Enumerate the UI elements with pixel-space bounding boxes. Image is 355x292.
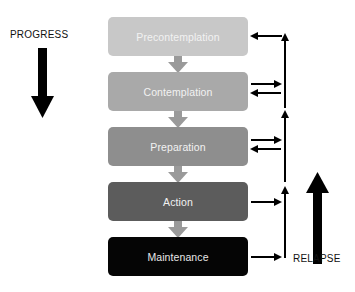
stage-label: Precontemplation xyxy=(136,31,219,43)
stage-contemplation: Contemplation xyxy=(108,72,248,111)
relapse-arrow-icon xyxy=(306,172,329,264)
progress-label: PROGRESS xyxy=(10,29,68,40)
stage-preparation: Preparation xyxy=(108,127,248,166)
stages-of-change-diagram: PROGRESS RELAPSE Precontemplation Contem… xyxy=(0,0,355,292)
relapse-label: RELAPSE xyxy=(293,253,341,264)
stage-maintenance: Maintenance xyxy=(108,237,248,276)
stage-label: Preparation xyxy=(150,141,205,153)
stage-label: Maintenance xyxy=(147,251,208,263)
stage-label: Action xyxy=(163,196,193,208)
progress-arrow-icon xyxy=(31,48,54,118)
stage-label: Contemplation xyxy=(143,86,212,98)
stage-precontemplation: Precontemplation xyxy=(108,17,248,56)
relapse-connectors xyxy=(250,32,289,261)
stage-action: Action xyxy=(108,182,248,221)
